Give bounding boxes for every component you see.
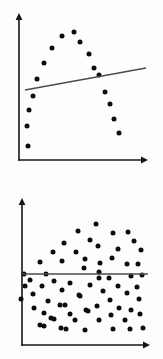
data-point [135,285,140,290]
data-point [68,281,73,286]
data-point [52,279,57,284]
data-point [126,230,131,235]
data-point [137,297,142,302]
data-point [132,239,137,244]
data-point [82,266,87,271]
x-axis-arrowhead-icon [143,342,150,349]
data-point [139,248,144,253]
data-point [107,276,112,281]
data-point [117,131,122,136]
data-point [59,326,64,331]
data-point [125,262,130,267]
data-point [78,294,83,299]
scatter-plot-figure [0,0,163,359]
y-axis-arrowhead-icon [16,13,23,20]
data-point [42,311,47,316]
top-data-points [25,30,122,149]
data-point [42,61,47,66]
data-point [110,256,115,261]
data-point [88,238,93,243]
data-point [101,289,106,294]
data-point [108,102,113,107]
data-point [72,30,77,35]
data-point [31,292,36,297]
data-point [111,231,116,236]
plot-canvas [0,0,163,359]
data-point [64,327,69,332]
data-point [129,308,134,313]
data-point [35,77,40,82]
data-point [26,144,31,149]
x-axis-arrowhead-icon [141,157,148,164]
data-point [94,222,99,227]
data-point [62,241,67,246]
data-point [141,326,146,331]
data-point [68,312,73,317]
data-point [32,306,37,311]
data-point [97,276,102,281]
data-point [76,229,81,234]
data-point [97,318,102,323]
data-point [23,284,28,289]
data-point [63,303,68,308]
data-point [109,313,114,318]
data-point [123,318,128,323]
data-point [19,297,24,302]
data-point [31,94,36,99]
data-point [78,40,83,45]
data-point [138,312,143,317]
data-point [73,318,78,323]
data-point [38,260,43,265]
data-point [117,306,122,311]
data-point [28,278,33,283]
data-point [60,288,65,293]
data-point [50,46,55,51]
data-point [125,291,130,296]
data-point [51,250,56,255]
data-point [111,327,116,332]
bottom-scatter-panel [19,198,151,348]
data-point [60,34,65,39]
data-point [83,328,88,333]
data-point [74,250,79,255]
top-regression-line [25,68,146,90]
top-scatter-panel [16,13,148,163]
data-point [46,299,51,304]
data-point [98,261,103,266]
data-point [103,90,108,95]
data-point [96,244,101,249]
data-point [116,284,121,289]
data-point [116,247,121,252]
data-point [27,108,32,113]
bottom-data-points [19,222,146,333]
data-point [92,66,97,71]
data-point [112,117,117,122]
data-point [83,257,88,262]
data-point [52,317,57,322]
data-point [136,262,141,267]
data-point [87,52,92,57]
data-point [25,124,30,129]
data-point [40,284,45,289]
y-axis-arrowhead-icon [19,198,26,205]
data-point [128,327,133,332]
data-point [108,298,113,303]
data-point [88,283,93,288]
data-point [95,304,100,309]
data-point [58,303,63,308]
data-point [86,309,91,314]
data-point [60,259,65,264]
data-point [42,324,47,329]
